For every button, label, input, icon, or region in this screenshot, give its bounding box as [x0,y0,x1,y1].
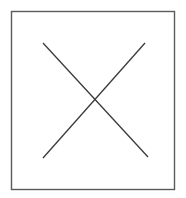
x-mark-figure [0,0,186,198]
figure-container [0,0,186,198]
rectangular-border [12,12,175,190]
